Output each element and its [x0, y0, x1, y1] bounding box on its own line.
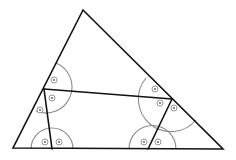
- arc-left-mid: [36, 63, 72, 113]
- arc-bottom-inner-right: [129, 125, 176, 149]
- circle-dot-icon: [152, 86, 158, 92]
- circle-dot-icon: [155, 139, 161, 145]
- circle-dot-icon: [141, 139, 147, 145]
- angle-arcs: [31, 63, 196, 149]
- circle-dot-icon: [56, 139, 62, 145]
- angle-marks: [37, 77, 177, 145]
- circle-dot-icon: [51, 77, 57, 83]
- circle-dot-icon: [49, 95, 55, 101]
- geometry-diagram: [0, 0, 236, 160]
- circle-dot-icon: [37, 107, 43, 113]
- circle-dot-icon: [157, 100, 163, 106]
- arc-right-mid: [138, 78, 196, 132]
- edges: [13, 10, 223, 149]
- outer-triangle: [13, 10, 223, 149]
- circle-dot-icon: [42, 139, 48, 145]
- circle-dot-icon: [171, 105, 177, 111]
